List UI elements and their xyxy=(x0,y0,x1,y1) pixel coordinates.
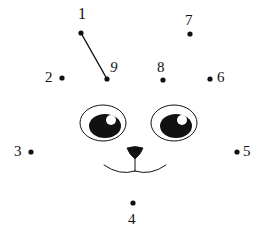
left-eye-highlight xyxy=(106,115,116,125)
dot-label-6: 6 xyxy=(217,70,225,85)
dot-label-3: 3 xyxy=(14,144,22,159)
dot-label-5: 5 xyxy=(243,144,251,159)
mouth-left-curve xyxy=(104,165,135,173)
puzzle-dot-6[interactable] xyxy=(207,76,212,81)
dot-label-4: 4 xyxy=(128,212,136,227)
right-eye-pupil xyxy=(160,114,192,138)
puzzle-dot-1[interactable] xyxy=(78,30,83,35)
puzzle-dot-5[interactable] xyxy=(234,149,239,154)
dot-label-1: 1 xyxy=(78,6,86,22)
puzzle-dot-3[interactable] xyxy=(28,149,33,154)
dots-layer xyxy=(28,30,239,205)
dot-label-8: 8 xyxy=(157,60,165,75)
dot-label-9: 9 xyxy=(110,60,118,75)
left-eye-pupil xyxy=(89,114,121,138)
nose-icon xyxy=(127,147,143,160)
puzzle-canvas: 123456789 xyxy=(0,0,263,227)
dot-label-2: 2 xyxy=(45,70,53,85)
right-eye xyxy=(151,105,197,141)
puzzle-dot-4[interactable] xyxy=(130,200,135,205)
right-eye-highlight xyxy=(177,115,187,125)
mouth-right-curve xyxy=(135,165,166,173)
puzzle-dot-7[interactable] xyxy=(187,31,192,36)
dot-label-7: 7 xyxy=(185,13,193,28)
puzzle-drawing xyxy=(0,0,263,227)
puzzle-dot-8[interactable] xyxy=(160,77,165,82)
puzzle-dot-9[interactable] xyxy=(104,76,109,81)
left-eye xyxy=(80,105,126,141)
connection-lines xyxy=(81,33,107,79)
connection-line-1-to-9 xyxy=(81,33,107,79)
puzzle-dot-2[interactable] xyxy=(59,75,64,80)
